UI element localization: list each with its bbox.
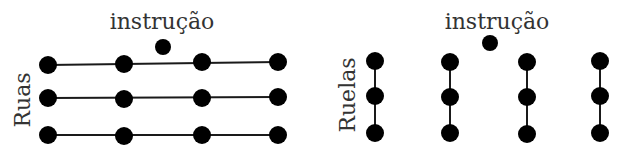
ruas-node [39, 89, 57, 107]
right-panel-ruelas: instrução Ruelas [335, 9, 609, 143]
diagram-canvas: instrução Ruas instrução Ruelas [0, 0, 623, 154]
ruelas-node [441, 53, 459, 71]
left-instruction-dot [155, 39, 171, 55]
ruas-label: Ruas [10, 72, 35, 127]
ruas-node [39, 126, 57, 144]
ruelas-node [591, 52, 609, 70]
right-instruction-label: instrução [445, 9, 550, 34]
ruas-node [193, 126, 211, 144]
ruas-node [193, 89, 211, 107]
ruelas-label: Ruelas [335, 57, 360, 132]
ruas-node [115, 55, 133, 73]
ruelas-node [366, 52, 384, 70]
ruas-node [269, 126, 287, 144]
ruas-node [269, 53, 287, 71]
ruas-node [39, 56, 57, 74]
right-instruction-dot [482, 35, 498, 51]
ruelas-node [366, 124, 384, 142]
ruas-lane-line-2 [48, 97, 278, 98]
ruelas-node [591, 124, 609, 142]
ruelas-node [518, 125, 536, 143]
ruas-node [115, 90, 133, 108]
ruelas-node [441, 124, 459, 142]
left-instruction-label: instrução [110, 9, 215, 34]
ruelas-node [441, 88, 459, 106]
ruelas-node [591, 87, 609, 105]
left-panel-ruas: instrução Ruas [10, 9, 287, 145]
ruas-node [269, 88, 287, 106]
ruas-node [193, 53, 211, 71]
ruelas-node [518, 88, 536, 106]
ruelas-node [518, 53, 536, 71]
ruas-lane-line-1 [48, 62, 278, 65]
ruas-node [115, 127, 133, 145]
ruelas-node [366, 87, 384, 105]
